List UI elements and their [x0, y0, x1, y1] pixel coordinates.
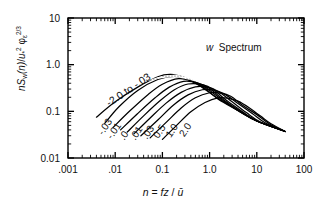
- series-annotation: w Spectrum: [206, 42, 262, 53]
- y-tick-label: 10: [49, 13, 61, 24]
- x-tick-label: 10: [251, 164, 263, 175]
- curve-labels: -2.0 to -.03-.03-.01.0.01.030.51.02.0: [95, 70, 193, 142]
- x-tick-label: .001: [58, 164, 78, 175]
- y-tick-label: 0.01: [41, 153, 61, 164]
- x-tick-labels: .001.010.11.010100: [58, 164, 313, 175]
- x-axis-label: n = fz / ū: [0, 186, 326, 198]
- curve-label-group-top: -2.0 to -.03: [104, 70, 153, 108]
- y-tick-label: 0.1: [46, 106, 60, 117]
- x-tick-label: 100: [296, 164, 313, 175]
- y-tick-labels: 0.010.11.010: [41, 13, 61, 164]
- x-tick-label: 1.0: [203, 164, 217, 175]
- y-axis-label: nSw(n)/u*2 φε2/3: [15, 0, 28, 124]
- chart-canvas: 0.010.11.010 .001.010.11.010100 -2.0 to …: [0, 0, 326, 214]
- spectrum-curve: [96, 74, 285, 131]
- x-tick-label: .01: [108, 164, 122, 175]
- figure-w-spectrum: 0.010.11.010 .001.010.11.010100 -2.0 to …: [0, 0, 326, 214]
- x-tick-label: 0.1: [155, 164, 169, 175]
- y-tick-label: 1.0: [46, 59, 60, 70]
